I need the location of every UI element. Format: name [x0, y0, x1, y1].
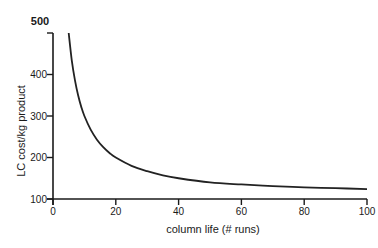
- y-ticks: 100200300400500: [30, 15, 53, 205]
- y-tick-label: 200: [30, 152, 47, 163]
- x-tick-label: 0: [50, 206, 56, 217]
- y-tick-label: 300: [30, 111, 47, 122]
- x-axis-label: column life (# runs): [166, 223, 260, 235]
- y-tick-label: 500: [31, 15, 49, 27]
- y-axis-label: LC cost/kg product: [15, 85, 27, 177]
- line-chart: 100200300400500 020406080100 column life…: [0, 0, 378, 248]
- y-tick-label: 400: [30, 69, 47, 80]
- y-axis: 100200300400500: [30, 15, 53, 205]
- x-tick-label: 60: [236, 206, 248, 217]
- x-tick-label: 80: [299, 206, 311, 217]
- x-ticks: 020406080100: [50, 199, 376, 217]
- x-tick-label: 20: [110, 206, 122, 217]
- x-tick-label: 100: [359, 206, 376, 217]
- cost-curve: [69, 33, 367, 189]
- y-tick-label: 100: [30, 194, 47, 205]
- x-axis: 020406080100: [47, 199, 376, 217]
- x-tick-label: 40: [173, 206, 185, 217]
